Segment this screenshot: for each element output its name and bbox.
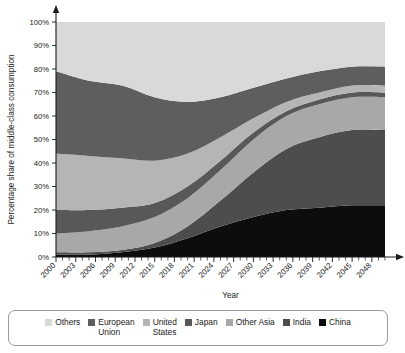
y-tick-label: 80% [34, 65, 49, 74]
legend-item-label: European Union [98, 317, 134, 337]
legend-swatch-icon [185, 319, 192, 326]
y-tick-label: 100% [30, 18, 50, 27]
legend-item-european-union[interactable]: European Union [88, 317, 134, 337]
x-tick-label: 2003 [59, 261, 78, 280]
x-tick-label: 2021 [177, 261, 196, 280]
legend-item-other-asia[interactable]: Other Asia [226, 317, 275, 327]
x-axis-arrow-icon [396, 254, 404, 260]
x-tick-label: 2009 [98, 261, 117, 280]
x-tick-label: 2024 [197, 261, 216, 280]
legend-swatch-icon [88, 319, 95, 326]
x-tick-label: 2045 [335, 261, 354, 280]
legend-item-united-states[interactable]: United States [143, 317, 177, 337]
x-tick-label: 2018 [157, 261, 176, 280]
legend-item-label: Other Asia [236, 317, 275, 327]
legend-swatch-icon [226, 319, 233, 326]
y-tick-label: 40% [34, 159, 49, 168]
x-tick-label: 2027 [216, 261, 235, 280]
y-tick-label: 50% [34, 135, 49, 144]
x-tick-label: 2015 [137, 261, 156, 280]
y-tick-label: 90% [34, 41, 49, 50]
y-tick-label: 20% [34, 206, 49, 215]
legend-item-label: United States [153, 317, 177, 337]
y-tick-label: 60% [34, 112, 49, 121]
legend-items-row: OthersEuropean UnionUnited StatesJapanOt… [9, 311, 387, 345]
chart-plot-area: 0%10%20%30%40%50%60%70%80%90%100%2000200… [0, 0, 405, 305]
x-axis-ticks: 2000200320062009201220152018202120242027… [39, 257, 385, 280]
x-tick-label: 2042 [315, 261, 334, 280]
legend-item-japan[interactable]: Japan [185, 317, 218, 327]
y-tick-label: 30% [34, 182, 49, 191]
x-tick-label: 2039 [295, 261, 314, 280]
legend-item-others[interactable]: Others [45, 317, 80, 327]
x-tick-label: 2012 [118, 261, 137, 280]
legend-item-india[interactable]: India [283, 317, 311, 327]
legend-item-label: Others [55, 317, 80, 327]
legend-item-label: China [329, 317, 351, 327]
y-tick-label: 10% [34, 229, 49, 238]
legend-item-china[interactable]: China [319, 317, 351, 327]
x-tick-label: 2030 [236, 261, 255, 280]
legend-item-label: Japan [195, 317, 218, 327]
x-tick-label: 2033 [256, 261, 275, 280]
chart-legend: OthersEuropean UnionUnited StatesJapanOt… [8, 310, 388, 346]
stacked-area-chart: 0%10%20%30%40%50%60%70%80%90%100%2000200… [0, 0, 405, 353]
x-tick-label: 2006 [78, 261, 97, 280]
legend-swatch-icon [45, 319, 52, 326]
legend-swatch-icon [283, 319, 290, 326]
x-tick-label: 2000 [39, 261, 58, 280]
y-tick-label: 70% [34, 88, 49, 97]
x-tick-label: 2036 [276, 261, 295, 280]
legend-swatch-icon [319, 319, 326, 326]
legend-swatch-icon [143, 319, 150, 326]
y-axis-ticks: 0%10%20%30%40%50%60%70%80%90%100% [30, 18, 56, 262]
y-tick-label: 0% [38, 253, 49, 262]
legend-item-label: India [293, 317, 311, 327]
y-axis-title: Percentage share of middle-class consump… [7, 54, 16, 225]
x-tick-label: 2048 [355, 261, 374, 280]
x-axis-title: Year [222, 291, 239, 300]
chart-areas-group [56, 22, 385, 257]
y-axis-arrow-icon [53, 5, 59, 13]
